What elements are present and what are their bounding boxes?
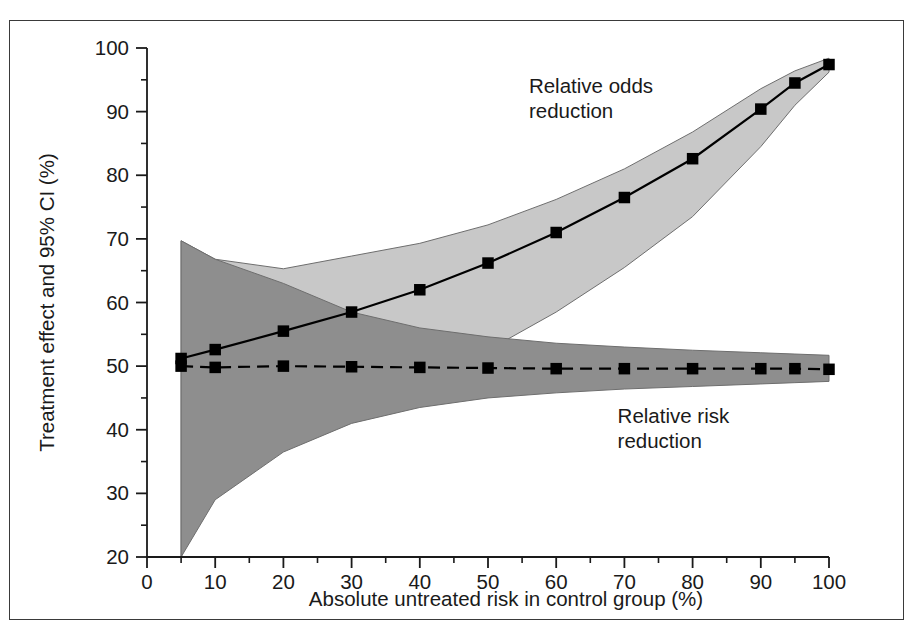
figure-frame [9,20,904,620]
figure-container: 2030405060708090100010203040506070809010… [0,0,917,635]
